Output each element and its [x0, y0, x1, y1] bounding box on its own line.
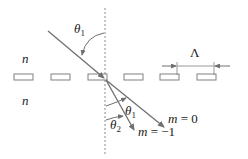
- medium-label-bottom: n: [22, 94, 29, 107]
- diffraction-grating-diagram: [0, 0, 248, 159]
- grating-element: [14, 74, 33, 80]
- theta1-diffracted-label: θ1: [125, 104, 136, 120]
- grating: [14, 74, 216, 80]
- grating-element: [197, 74, 216, 80]
- grating-element: [88, 74, 107, 80]
- theta1-incident-label: θ1: [74, 22, 85, 38]
- order-minus-1-label: m = −1: [138, 125, 175, 138]
- theta1-incident-arc: [82, 33, 104, 55]
- period-dimension: [162, 62, 230, 75]
- medium-label-top: n: [22, 52, 29, 65]
- theta1-diffracted-arc: [106, 98, 126, 106]
- period-label: Λ: [190, 46, 199, 59]
- grating-element: [160, 74, 179, 80]
- theta2-label: θ2: [110, 118, 121, 134]
- incident-ray: [48, 31, 104, 78]
- grating-element: [51, 74, 70, 80]
- grating-element: [124, 74, 143, 80]
